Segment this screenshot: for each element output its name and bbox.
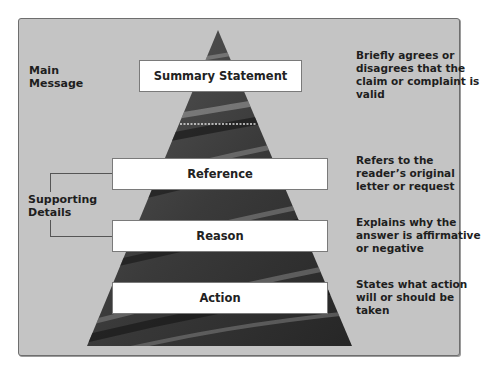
main-message-label: Main Message xyxy=(29,64,83,90)
level-summary-statement: Summary Statement xyxy=(139,60,302,92)
level-reference: Reference xyxy=(112,158,328,190)
description-summary-statement: Briefly agrees or disagrees that the cla… xyxy=(356,49,481,101)
description-reference: Refers to the reader’s original letter o… xyxy=(356,154,481,193)
description-reason: Explains why the answer is affirmative o… xyxy=(356,216,481,255)
level-reason: Reason xyxy=(112,220,328,252)
supporting-details-label: Supporting Details xyxy=(28,192,97,220)
description-action: States what action will or should be tak… xyxy=(356,278,481,317)
level-action: Action xyxy=(112,282,328,314)
